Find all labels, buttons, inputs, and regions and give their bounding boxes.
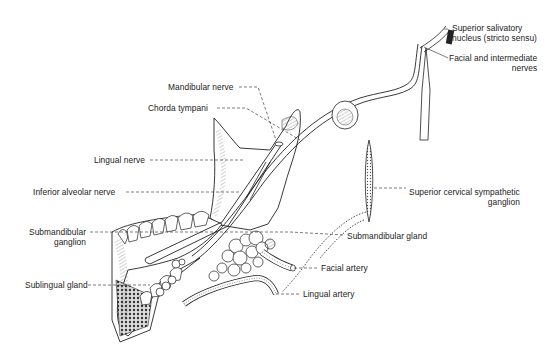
label-inferior-alveolar-nerve: Inferior alveolar nerve xyxy=(33,187,115,197)
label-line: ganglion xyxy=(29,237,86,247)
label-facial-intermediate-nerves: Facial and intermediate nerves xyxy=(449,53,537,73)
label-chorda-tympani: Chorda tympani xyxy=(148,103,208,113)
label-line: Submandibular xyxy=(29,227,86,237)
mandible-body xyxy=(112,211,222,342)
lingual-artery xyxy=(184,278,276,304)
label-line: Facial and intermediate xyxy=(449,53,537,63)
label-sublingual-gland: Sublingual gland xyxy=(25,280,88,290)
label-line: nerves xyxy=(449,63,537,73)
label-superior-salivatory-nucleus: Superior salivatory nucleus (stricto sen… xyxy=(452,23,537,43)
teeth-lower xyxy=(140,267,182,305)
label-lingual-nerve: Lingual nerve xyxy=(94,155,145,165)
submandibular-ganglion xyxy=(172,259,185,268)
label-line: Superior cervical sympathetic xyxy=(409,187,520,197)
facial-artery xyxy=(262,252,296,271)
label-facial-artery: Facial artery xyxy=(321,263,368,273)
tympanic-structure xyxy=(332,101,358,129)
mandible-ramus xyxy=(210,110,300,230)
label-line: Superior salivatory xyxy=(452,23,537,33)
label-lingual-artery: Lingual artery xyxy=(303,289,354,299)
superior-cervical-ganglion xyxy=(365,140,373,222)
label-submandibular-ganglion: Submandibular ganglion xyxy=(29,227,86,247)
sympathetic-fibres xyxy=(282,212,366,292)
label-line: ganglion xyxy=(409,197,520,207)
label-mandibular-nerve: Mandibular nerve xyxy=(168,82,234,92)
label-submandibular-gland: Submandibular gland xyxy=(347,231,427,241)
label-line: nucleus (stricto sensu) xyxy=(452,33,537,43)
label-superior-cervical-ganglion: Superior cervical sympathetic ganglion xyxy=(409,187,520,207)
